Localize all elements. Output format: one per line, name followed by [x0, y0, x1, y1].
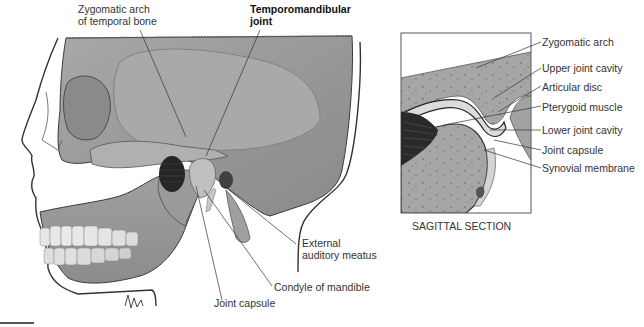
external-auditory-meatus-opening [219, 171, 233, 189]
inset-label-upper-joint-cavity: Upper joint cavity [542, 62, 623, 74]
orbit [64, 76, 111, 140]
artist-signature [125, 295, 143, 308]
label-zygomatic-arch-temporal-bone: Zygomatic arch of temporal bone [78, 3, 157, 27]
inset-label-joint-capsule: Joint capsule [542, 144, 603, 156]
sagittal-section-inset [401, 33, 541, 213]
inset-label-zygomatic-arch: Zygomatic arch [542, 36, 614, 48]
inset-label-synovial-membrane: Synovial membrane [542, 162, 635, 174]
label-sagittal-section: SAGITTAL SECTION [412, 220, 511, 232]
inset-label-lower-joint-cavity: Lower joint cavity [542, 124, 623, 136]
coronoid-muscle [159, 156, 185, 192]
skull-illustration [22, 30, 360, 308]
inset-label-pterygoid-muscle: Pterygoid muscle [542, 101, 623, 113]
inset-label-articular-disc: Articular disc [542, 81, 602, 93]
teeth [40, 226, 138, 265]
label-condyle-of-mandible: Condyle of mandible [274, 281, 370, 293]
corner-rule [0, 322, 34, 324]
label-temporomandibular-joint: Temporomandibular joint [250, 3, 351, 27]
label-external-auditory-meatus: External auditory meatus [302, 237, 377, 261]
label-joint-capsule: Joint capsule [214, 297, 275, 309]
